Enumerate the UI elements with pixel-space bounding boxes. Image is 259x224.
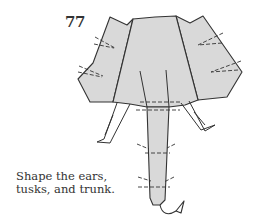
- left-tusk: [97, 103, 130, 143]
- right-tusk: [181, 101, 215, 131]
- step-caption: Shape the ears, tusks, and trunk.: [16, 170, 115, 196]
- caption-line-2: tusks, and trunk.: [16, 183, 115, 196]
- trunk: [147, 107, 184, 214]
